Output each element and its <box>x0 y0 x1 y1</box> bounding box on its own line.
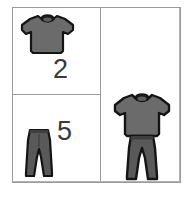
diagram-canvas: 2 5 <box>0 0 192 197</box>
pants-count-label: 5 <box>57 118 72 145</box>
pants-icon <box>22 127 56 179</box>
cell-pants[interactable]: 5 <box>13 95 100 182</box>
tshirt-icon <box>20 13 76 55</box>
outfit-tshirt-icon <box>115 94 169 136</box>
outfit-icon <box>113 92 171 182</box>
cell-shirts[interactable]: 2 <box>13 8 100 94</box>
outfit-pants-icon <box>127 136 157 179</box>
shirt-count-label: 2 <box>53 56 68 83</box>
grid-frame: 2 5 <box>12 7 181 183</box>
cell-outfit[interactable] <box>101 8 181 182</box>
